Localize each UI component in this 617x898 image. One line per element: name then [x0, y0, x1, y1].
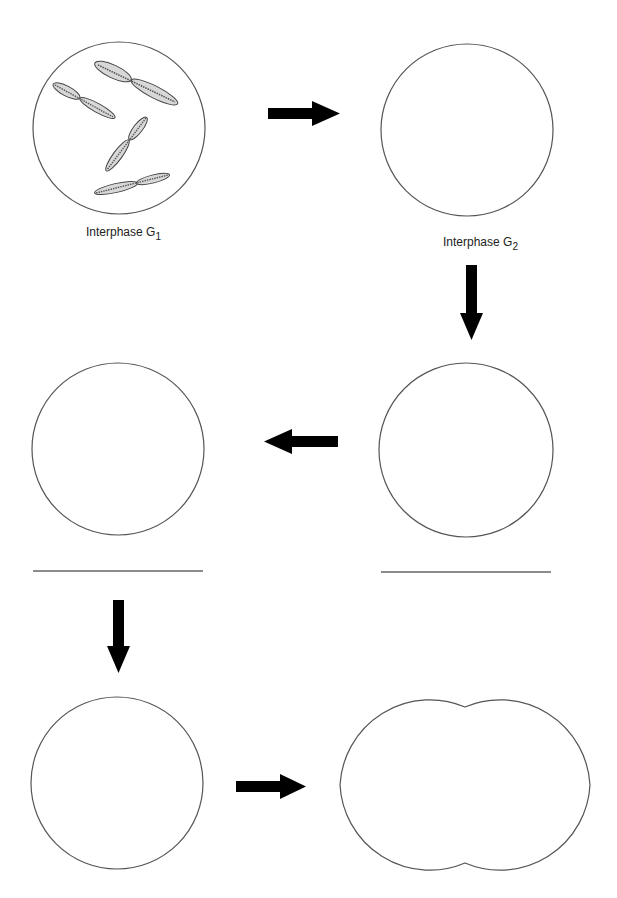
cell-interphase-g1 — [33, 42, 205, 214]
cell-cycle-diagram — [0, 0, 617, 898]
arrow-down-icon — [460, 265, 483, 340]
cell-interphase-g2 — [381, 44, 553, 216]
label-interphase-g1: Interphase G1 — [86, 225, 161, 242]
cell-stage-4 — [32, 363, 204, 535]
label-interphase-g2: Interphase G2 — [443, 235, 518, 252]
arrow-right-icon — [268, 101, 340, 126]
label-text: Interphase G — [86, 225, 155, 239]
label-subscript: 1 — [155, 231, 161, 242]
arrow-left-icon — [264, 429, 338, 454]
cell-stage-3 — [379, 363, 553, 537]
arrow-down-icon — [107, 600, 130, 673]
cell-dividing-cytokinesis — [340, 700, 590, 870]
arrow-right-icon — [236, 774, 306, 799]
cell-stage-5 — [31, 697, 203, 869]
label-text: Interphase G — [443, 235, 512, 249]
label-subscript: 2 — [512, 241, 518, 252]
